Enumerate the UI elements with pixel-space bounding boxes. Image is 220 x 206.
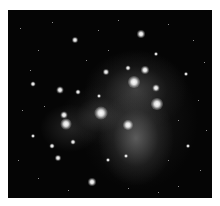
faint-star (198, 100, 199, 101)
bright-star (103, 69, 109, 75)
bright-star (31, 134, 35, 138)
faint-star (128, 188, 129, 189)
bright-star (50, 144, 55, 149)
bright-star (55, 155, 61, 161)
faint-star (22, 110, 23, 111)
bright-star (71, 140, 76, 145)
faint-star (86, 60, 87, 61)
star-cluster-photo (8, 10, 212, 198)
bright-star (137, 30, 145, 38)
faint-star (118, 20, 119, 21)
bright-star (128, 76, 140, 88)
bright-star (184, 72, 188, 76)
faint-star (158, 192, 159, 193)
bright-star (123, 120, 133, 130)
bright-star (88, 178, 96, 186)
faint-star (52, 22, 53, 23)
faint-star (20, 28, 21, 29)
bright-star (57, 87, 64, 94)
bright-star (124, 154, 128, 158)
faint-star (206, 130, 207, 131)
faint-star (38, 50, 39, 51)
faint-star (18, 160, 19, 161)
bright-star (106, 158, 110, 162)
bright-star (61, 112, 68, 119)
bright-star (61, 119, 72, 130)
bright-star (95, 107, 108, 120)
bright-star (151, 98, 163, 110)
faint-star (44, 106, 45, 107)
bright-star (186, 144, 190, 148)
faint-star (178, 186, 179, 187)
faint-star (30, 70, 31, 71)
bright-star (153, 85, 160, 92)
bright-star (72, 37, 78, 43)
bright-star (76, 90, 81, 95)
faint-star (108, 50, 109, 51)
faint-star (200, 170, 201, 171)
bright-star (154, 52, 158, 56)
bright-star (97, 94, 101, 98)
faint-star (168, 160, 169, 161)
faint-star (178, 120, 179, 121)
faint-star (98, 30, 99, 31)
faint-star (204, 62, 205, 63)
faint-star (68, 190, 69, 191)
bright-star (141, 66, 149, 74)
bright-star (31, 82, 36, 87)
bright-star (126, 66, 131, 71)
faint-star (168, 24, 169, 25)
faint-star (38, 178, 39, 179)
faint-star (193, 40, 194, 41)
nebula-glow (8, 10, 212, 198)
